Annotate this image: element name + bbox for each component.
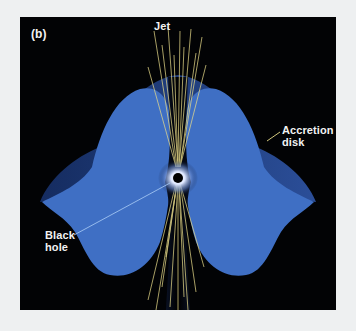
accretion-disk-leader-line	[267, 132, 280, 141]
accretion-disk-label-line2: disk	[282, 136, 334, 148]
jet-label: Jet	[154, 20, 170, 32]
black-hole-diagram	[20, 17, 336, 310]
black-hole	[173, 173, 183, 183]
black-hole-label-line1: Black	[45, 229, 75, 241]
black-hole-label-line2: hole	[45, 241, 75, 253]
panel-label: (b)	[31, 28, 47, 40]
accretion-disk-label: Accretion disk	[282, 124, 334, 148]
accretion-disk-label-line1: Accretion	[282, 124, 334, 136]
diagram-panel: (b) Jet Accretion disk Black hole	[20, 17, 336, 310]
black-hole-label: Black hole	[45, 229, 75, 253]
